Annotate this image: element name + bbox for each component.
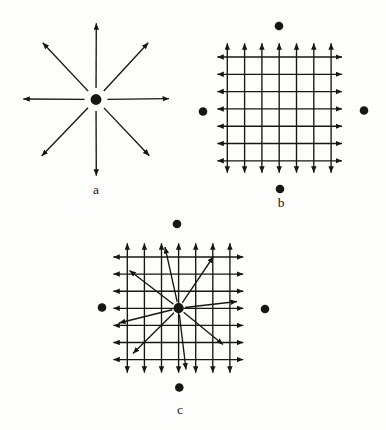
- outer-charge-dot: [275, 22, 284, 31]
- outer-charge-dot: [98, 303, 107, 312]
- panel-b: [199, 22, 369, 194]
- panel-label-a: a: [93, 183, 99, 197]
- radial-field-arrow: [182, 257, 213, 303]
- diagram-svg: [0, 0, 386, 430]
- radial-field-arrow: [104, 43, 149, 91]
- center-charge-dot: [91, 94, 102, 105]
- radial-field-arrow: [184, 312, 223, 344]
- outer-charge-dot: [199, 107, 208, 116]
- panel-label-c: c: [177, 403, 183, 417]
- center-charge-dot: [174, 303, 184, 313]
- radial-field-arrow: [133, 313, 174, 354]
- radial-field-arrow: [185, 302, 237, 308]
- radial-field-arrow: [104, 108, 149, 156]
- radial-field-arrow: [107, 99, 169, 100]
- physics-field-figure: a b c: [0, 0, 386, 430]
- outer-charge-dot: [360, 106, 369, 115]
- panel-a: [23, 23, 169, 175]
- outer-charge-dot: [173, 220, 182, 229]
- outer-charge-dot: [175, 383, 184, 392]
- panel-label-b: b: [278, 196, 285, 210]
- radial-field-arrow: [42, 108, 88, 156]
- outer-charge-dot: [261, 305, 270, 314]
- outer-charge-dot: [276, 185, 285, 194]
- radial-field-arrow: [130, 271, 174, 305]
- panel-c: [98, 220, 270, 392]
- radial-field-arrow: [43, 43, 88, 91]
